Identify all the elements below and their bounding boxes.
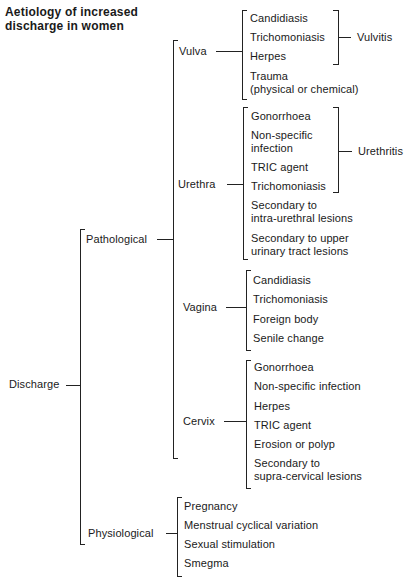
urethritis-bracket-bottom: [333, 192, 338, 193]
vulvitis-label: Vulvitis: [357, 31, 392, 44]
cervix-item: supra-cervical lesions: [254, 470, 362, 483]
physiological-item: Smegma: [184, 557, 229, 570]
vagina-item: Trichomoniasis: [253, 293, 328, 306]
cervix-item: TRIC agent: [254, 419, 311, 432]
level1-bracket-top: [80, 229, 85, 230]
physiological-bracket-top: [177, 497, 182, 498]
vagina-item: Candidiasis: [253, 274, 311, 287]
urethra-connector: [227, 184, 243, 185]
urethritis-bracket-top: [333, 107, 338, 108]
urethra-item: intra-urethral lesions: [251, 212, 353, 225]
physiological-item: Menstrual cyclical variation: [184, 519, 318, 532]
urethra-item: Gonorrhoea: [251, 110, 311, 123]
vulva-item: Trichomoniasis: [250, 31, 325, 44]
urethra-bracket-top: [243, 107, 248, 108]
urethritis-connector: [338, 151, 352, 152]
vulva-bracket: [242, 10, 243, 100]
physiological-bracket-bottom: [177, 576, 182, 577]
cervix-label: Cervix: [183, 415, 215, 428]
vulva-item: Herpes: [250, 50, 286, 63]
cervix-item: Herpes: [254, 400, 290, 413]
vagina-bracket-bottom: [246, 350, 251, 351]
diagram-title: Aetiology of increased discharge in wome…: [5, 5, 138, 33]
urethra-item: TRIC agent: [251, 161, 308, 174]
urethra-item: urinary tract lesions: [251, 245, 348, 258]
pathological-bracket: [173, 40, 174, 459]
urethritis-label: Urethritis: [358, 145, 403, 158]
cervix-bracket-bottom: [246, 488, 251, 489]
root-connector: [66, 385, 80, 386]
urethra-bracket-bottom: [243, 259, 248, 260]
vulva-item: Candidiasis: [250, 12, 308, 25]
vagina-label: Vagina: [183, 301, 217, 314]
root-label: Discharge: [9, 378, 59, 391]
physiological-label: Physiological: [88, 527, 154, 540]
urethra-bracket: [243, 107, 244, 260]
cervix-connector: [224, 421, 246, 422]
urethritis-bracket: [338, 107, 339, 193]
vulva-item: (physical or chemical): [250, 83, 359, 96]
urethra-label: Urethra: [178, 178, 215, 191]
level1-bracket: [80, 229, 81, 545]
vulva-label: Vulva: [179, 45, 207, 58]
pathological-connector: [157, 239, 173, 240]
urethra-item: Secondary to upper: [251, 232, 349, 245]
vagina-item: Senile change: [253, 332, 324, 345]
pathological-bracket-bottom: [173, 458, 178, 459]
vagina-bracket: [246, 270, 247, 351]
vulva-bracket-top: [242, 10, 247, 11]
cervix-item: Non-specific infection: [254, 380, 361, 393]
vagina-connector: [226, 307, 246, 308]
cervix-item: Gonorrhoea: [254, 361, 314, 374]
vagina-item: Foreign body: [253, 313, 318, 326]
cervix-item: Secondary to: [254, 457, 320, 470]
physiological-bracket: [177, 497, 178, 577]
vulvitis-bracket-top: [333, 10, 338, 11]
cervix-bracket-top: [246, 360, 251, 361]
pathological-label: Pathological: [86, 233, 147, 246]
vulvitis-connector: [338, 37, 351, 38]
urethra-item: infection: [251, 142, 293, 155]
vagina-bracket-top: [246, 270, 251, 271]
urethra-item: Secondary to: [251, 199, 317, 212]
physiological-item: Sexual stimulation: [184, 538, 275, 551]
cervix-bracket: [246, 360, 247, 489]
vulva-bracket-bottom: [242, 99, 247, 100]
urethra-item: Non-specific: [251, 129, 313, 142]
title-line-1: Aetiology of increased: [5, 5, 138, 19]
level1-bracket-bottom: [80, 544, 85, 545]
cervix-item: Erosion or polyp: [254, 438, 335, 451]
pathological-bracket-top: [173, 40, 178, 41]
title-line-2: discharge in women: [5, 19, 138, 33]
vulvitis-bracket-bottom: [333, 64, 338, 65]
vulva-item: Trauma: [250, 70, 288, 83]
physiological-connector: [166, 533, 177, 534]
vulva-connector: [216, 51, 242, 52]
urethra-item: Trichomoniasis: [251, 180, 326, 193]
physiological-item: Pregnancy: [184, 500, 238, 513]
